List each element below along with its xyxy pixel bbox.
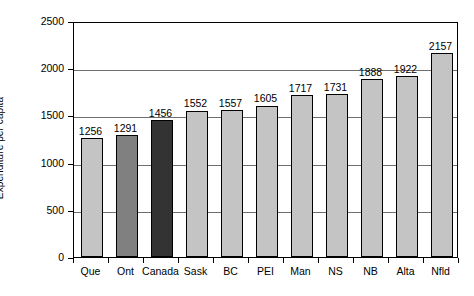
- y-axis-tick-label: 1000: [4, 158, 64, 169]
- x-axis-tick-mark: [178, 258, 179, 263]
- y-axis-tick-label: 2000: [4, 63, 64, 74]
- bar: [186, 111, 208, 258]
- x-axis-tick-mark: [108, 258, 109, 263]
- bar-value-label: 1291: [104, 122, 148, 134]
- x-axis-tick-mark: [73, 258, 74, 263]
- y-axis-tick-label: 0: [4, 252, 64, 263]
- bar: [396, 76, 418, 257]
- y-axis-tick-mark: [68, 69, 74, 70]
- x-axis-tick-mark: [213, 258, 214, 263]
- x-axis-tick-mark: [248, 258, 249, 263]
- bar: [291, 95, 313, 257]
- bar: [221, 110, 243, 257]
- x-axis-tick-mark: [353, 258, 354, 263]
- x-axis-tick-mark: [283, 258, 284, 263]
- bar: [256, 106, 278, 258]
- y-axis-tick-label: 1500: [4, 110, 64, 121]
- x-axis-tick-mark: [388, 258, 389, 263]
- bar-value-label: 2157: [419, 40, 463, 52]
- bar: [81, 138, 103, 257]
- bar: [361, 79, 383, 257]
- bar: [116, 135, 138, 257]
- y-axis-tick-mark: [68, 116, 74, 117]
- bar-chart: Expenditure per capita 05001000150020002…: [0, 0, 474, 296]
- y-axis-tick-mark: [68, 22, 74, 23]
- bar: [151, 120, 173, 257]
- x-axis-tick-mark: [143, 258, 144, 263]
- plot-area: [73, 22, 458, 258]
- bar-value-label: 1605: [244, 92, 288, 104]
- x-axis-category-label: Nfld: [415, 265, 467, 278]
- x-axis-tick-mark: [423, 258, 424, 263]
- y-axis-tick-mark: [68, 211, 74, 212]
- bar: [431, 53, 453, 257]
- y-axis-tick-label: 2500: [4, 16, 64, 27]
- y-axis-tick-mark: [68, 164, 74, 165]
- bar-value-label: 1922: [384, 63, 428, 75]
- x-axis-tick-mark: [318, 258, 319, 263]
- x-axis-tick-mark: [458, 258, 459, 263]
- bar-value-label: 1731: [314, 81, 358, 93]
- bar: [326, 94, 348, 257]
- y-axis-tick-label: 500: [4, 205, 64, 216]
